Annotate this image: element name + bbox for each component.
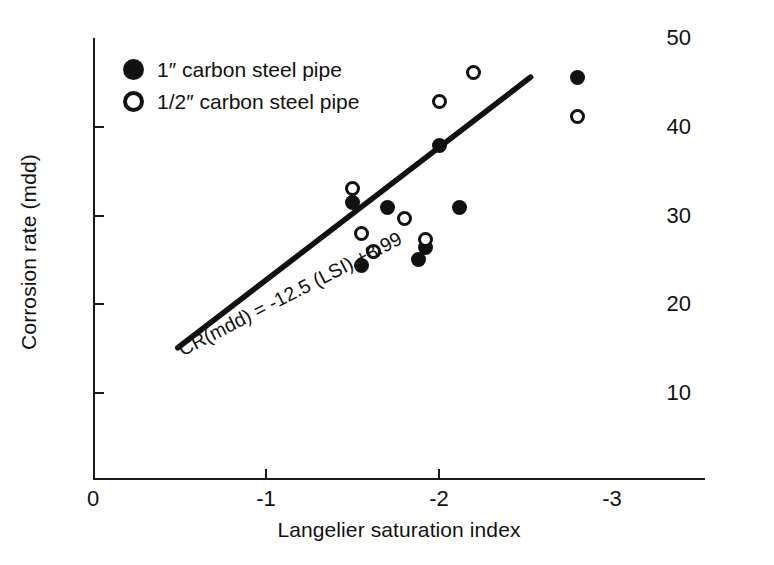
data-point [354,226,369,241]
x-tick-label: -3 [582,488,642,510]
data-point [345,195,360,210]
legend-item-label: 1/2″ carbon steel pipe [157,91,359,112]
plot-area: 1020304050 0-1-2-3 CR(mdd) = -12.5 (LSI)… [93,38,705,480]
x-axis-title: Langelier saturation index [93,518,705,542]
data-point [380,200,395,215]
corrosion-rate-scatter-chart: Corrosion rate (mdd) Langelier saturatio… [0,0,774,565]
legend-item-label: 1″ carbon steel pipe [157,59,342,80]
data-point [397,211,412,226]
x-tick-label: 0 [63,488,123,510]
legend-item: 1″ carbon steel pipe [123,56,359,82]
open-circle-icon [123,91,144,112]
legend-item: 1/2″ carbon steel pipe [123,88,359,114]
data-point [432,94,447,109]
data-point [432,138,447,153]
legend: 1″ carbon steel pipe1/2″ carbon steel pi… [123,56,359,114]
filled-circle-icon [123,59,144,80]
data-point [418,232,433,247]
x-tick-label: -2 [409,488,469,510]
x-tick-label: -1 [236,488,296,510]
y-axis-title: Corrosion rate (mdd) [12,32,46,472]
